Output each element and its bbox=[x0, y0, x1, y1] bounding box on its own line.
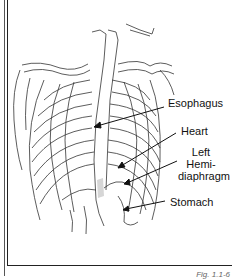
label-line-left: Left bbox=[178, 146, 224, 158]
label-heart: Heart bbox=[181, 125, 208, 137]
spine-left bbox=[92, 30, 106, 200]
label-left-hemidiaphragm: Left Hemi- diaphragm bbox=[178, 146, 224, 182]
figure-caption: Fig. 1.1-6 bbox=[196, 270, 230, 279]
right-humerus bbox=[14, 70, 22, 170]
right-clavicle bbox=[22, 63, 88, 69]
chest-xray-drawing bbox=[0, 0, 232, 280]
shaded-region bbox=[97, 178, 104, 198]
rib-cage-right bbox=[29, 80, 44, 220]
label-stomach: Stomach bbox=[170, 196, 213, 208]
rib-cage-left bbox=[150, 80, 160, 220]
label-line-hemi: Hemi- bbox=[178, 158, 224, 170]
label-esophagus: Esophagus bbox=[168, 97, 223, 109]
spine-right bbox=[106, 30, 118, 190]
esophagus-arrow bbox=[97, 107, 164, 126]
label-line-diaphragm: diaphragm bbox=[178, 170, 224, 182]
